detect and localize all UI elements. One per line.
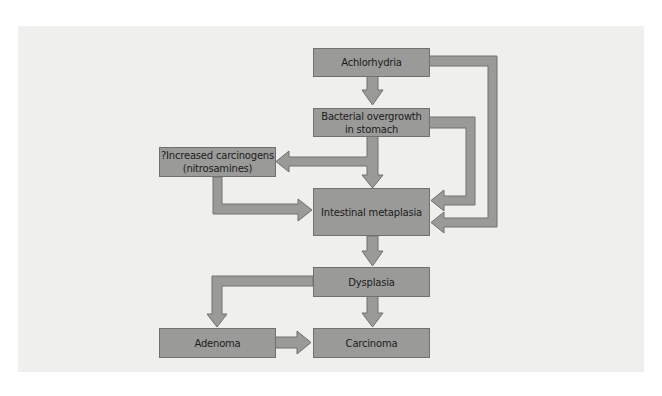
node-bacterial-overgrowth: Bacterial overgrowth in stomach (313, 108, 430, 137)
node-label-line1: Bacterial overgrowth (321, 110, 421, 123)
arrow-dysplasia-to-carcinoma (362, 296, 383, 327)
node-intestinal-metaplasia: Intestinal metaplasia (313, 188, 430, 236)
arrow-dysplasia-to-adenoma (207, 276, 313, 327)
node-adenoma: Adenoma (159, 328, 276, 358)
node-dysplasia: Dysplasia (313, 267, 430, 297)
node-label-line1: ?Increased carcinogens (161, 149, 274, 162)
arrow-metaplasia-to-dysplasia (362, 236, 383, 266)
node-label: Carcinoma (346, 337, 398, 350)
node-label: Dysplasia (348, 276, 394, 289)
arrow-achlorhydria-to-bacterial (362, 76, 383, 105)
node-label: Intestinal metaplasia (321, 206, 422, 219)
arrow-carcinogens-to-metaplasia (213, 177, 312, 221)
node-label-line2: in stomach (345, 123, 398, 136)
node-label: Adenoma (194, 337, 240, 350)
node-label: Achlorhydria (341, 56, 402, 69)
node-achlorhydria: Achlorhydria (313, 48, 430, 77)
node-carcinoma: Carcinoma (313, 328, 430, 358)
arrow-bacterial-loop-to-metaplasia (429, 117, 475, 211)
node-increased-carcinogens: ?Increased carcinogens (nitrosamines) (159, 147, 276, 177)
node-label-line2: (nitrosamines) (183, 162, 253, 175)
arrow-adenoma-to-carcinoma (275, 331, 311, 354)
